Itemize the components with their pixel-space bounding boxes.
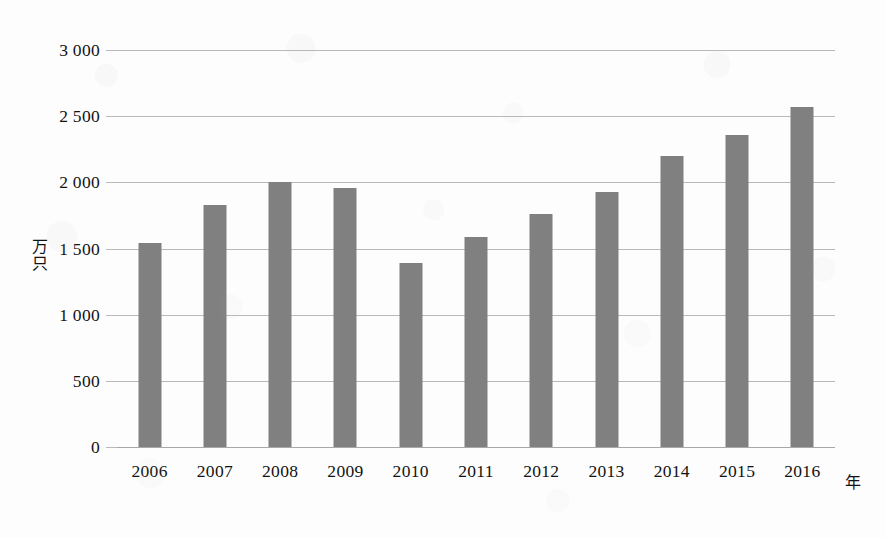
bar-group-2016: 2016 bbox=[770, 50, 835, 447]
y-tick-mark-500 bbox=[106, 381, 117, 382]
y-axis-tick-label: 2 000 bbox=[59, 172, 100, 193]
x-axis-tick-label: 2016 bbox=[784, 461, 820, 482]
x-axis-tick-label: 2006 bbox=[132, 461, 168, 482]
y-axis-tick-label: 1 000 bbox=[59, 304, 100, 325]
y-axis-tick-label: 500 bbox=[73, 370, 100, 391]
bar bbox=[399, 263, 422, 447]
x-axis-title: 年 bbox=[845, 469, 861, 493]
x-axis-tick-label: 2014 bbox=[654, 461, 690, 482]
y-tick-mark-1000 bbox=[106, 315, 117, 316]
y-axis-tick-label: 1 500 bbox=[59, 238, 100, 259]
x-axis-tick-label: 2009 bbox=[327, 461, 363, 482]
y-axis-tick-label: 2 500 bbox=[59, 106, 100, 127]
bar-group-2013: 2013 bbox=[574, 50, 639, 447]
y-tick-mark-3000 bbox=[106, 50, 117, 51]
y-tick-mark-2500 bbox=[106, 116, 117, 117]
bar bbox=[464, 237, 487, 447]
x-axis-tick-label: 2008 bbox=[262, 461, 298, 482]
bar-group-2006: 2006 bbox=[117, 50, 182, 447]
bar-group-2015: 2015 bbox=[704, 50, 769, 447]
y-axis-title-line-1: 万 bbox=[30, 238, 49, 255]
bar-group-2008: 2008 bbox=[248, 50, 313, 447]
bar bbox=[791, 107, 814, 447]
bar bbox=[660, 156, 683, 447]
bar bbox=[726, 135, 749, 447]
y-axis-title-line-2: 只 bbox=[30, 255, 49, 272]
bar bbox=[595, 192, 618, 447]
x-axis-tick-label: 2012 bbox=[523, 461, 559, 482]
bar-group-2011: 2011 bbox=[443, 50, 508, 447]
y-tick-mark-1500 bbox=[106, 249, 117, 250]
bar-group-2009: 2009 bbox=[313, 50, 378, 447]
bar bbox=[269, 182, 292, 447]
y-axis-tick-label: 3 000 bbox=[59, 40, 100, 61]
bar bbox=[334, 188, 357, 447]
x-axis-tick-label: 2007 bbox=[197, 461, 233, 482]
y-tick-mark-2000 bbox=[106, 182, 117, 183]
y-axis-title: 万 只 bbox=[30, 238, 49, 272]
bar bbox=[203, 205, 226, 447]
x-axis-tick-label: 2015 bbox=[719, 461, 755, 482]
bar-chart-figure: 万 只 05001 0001 5002 0002 5003 000 200620… bbox=[0, 0, 885, 538]
x-axis-tick-label: 2013 bbox=[588, 461, 624, 482]
bar bbox=[530, 214, 553, 447]
x-axis-tick-label: 2010 bbox=[393, 461, 429, 482]
x-axis-tick-label: 2011 bbox=[458, 461, 494, 482]
bar-group-2014: 2014 bbox=[639, 50, 704, 447]
gridline-0 bbox=[117, 447, 835, 448]
bar bbox=[138, 243, 161, 447]
bar-group-2007: 2007 bbox=[182, 50, 247, 447]
y-tick-mark-0 bbox=[106, 447, 117, 448]
bar-group-2010: 2010 bbox=[378, 50, 443, 447]
bar-group-2012: 2012 bbox=[509, 50, 574, 447]
y-axis-tick-label: 0 bbox=[91, 437, 100, 458]
bars-group: 2006200720082009201020112012201320142015… bbox=[117, 50, 835, 447]
plot-area: 05001 0001 5002 0002 5003 000 2006200720… bbox=[117, 50, 835, 447]
